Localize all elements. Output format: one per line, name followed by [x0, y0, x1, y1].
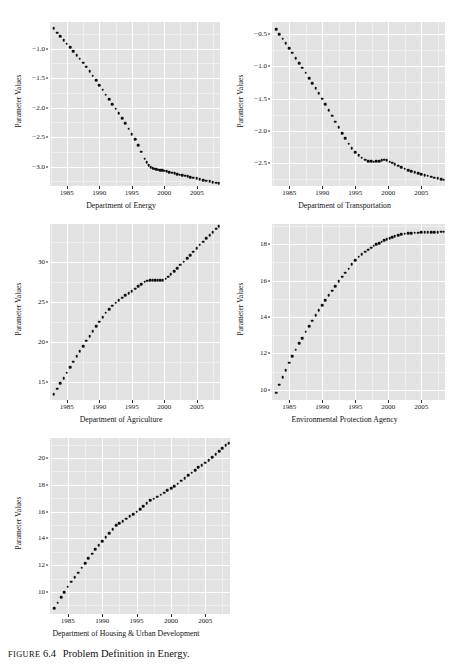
- data-point: [218, 450, 221, 453]
- y-tick-label: −2.0: [254, 127, 267, 135]
- y-tick-label: −1.5: [254, 95, 267, 103]
- data-point: [187, 474, 190, 477]
- grid-major-v: [205, 438, 206, 614]
- data-point: [134, 138, 137, 141]
- grid-minor-v: [339, 22, 340, 186]
- grid-minor-h: [50, 322, 220, 323]
- data-point: [354, 151, 357, 154]
- data-point: [410, 232, 413, 235]
- data-point: [195, 177, 198, 180]
- data-point: [341, 276, 344, 279]
- y-tick-label: 16: [260, 277, 267, 285]
- y-axis-ticks-hud: 101214161820: [24, 432, 48, 644]
- grid-major-v: [137, 438, 138, 614]
- data-point: [87, 557, 90, 560]
- data-point: [67, 585, 70, 588]
- data-point: [173, 485, 176, 488]
- data-point: [82, 61, 85, 64]
- grid-major-v: [99, 224, 100, 400]
- data-point: [85, 66, 88, 69]
- grid-major-v: [355, 22, 356, 186]
- data-point: [121, 117, 124, 120]
- data-point: [91, 552, 94, 555]
- y-axis-ticks-epa: 1012141618: [246, 218, 270, 430]
- grid-minor-h: [50, 498, 230, 499]
- y-tick-label: −3.0: [32, 163, 45, 171]
- data-point: [351, 147, 354, 150]
- data-point: [170, 487, 173, 490]
- data-point: [180, 480, 183, 483]
- data-point: [304, 72, 307, 75]
- data-point: [347, 267, 350, 270]
- data-point: [344, 271, 347, 274]
- grid-major-h: [272, 390, 445, 391]
- y-tick-label: −0.5: [254, 30, 267, 38]
- data-point: [82, 345, 85, 348]
- data-point: [140, 283, 143, 286]
- y-tick-mark: [268, 98, 271, 99]
- grid-minor-h: [50, 122, 220, 123]
- data-point: [208, 234, 211, 237]
- caption-figure-number: 6.4: [43, 648, 56, 659]
- data-point: [217, 225, 220, 228]
- data-point: [62, 377, 65, 380]
- y-tick-label: 20: [38, 454, 45, 462]
- data-point: [152, 497, 155, 500]
- data-point: [189, 176, 192, 179]
- y-tick-label: 18: [260, 240, 267, 248]
- data-point: [124, 294, 127, 297]
- y-tick-mark: [268, 280, 271, 281]
- data-point: [436, 177, 439, 180]
- x-tick-label: 1990: [315, 403, 329, 411]
- y-tick-label: −1.5: [32, 74, 45, 82]
- grid-major-h: [272, 99, 445, 100]
- grid-minor-v: [306, 22, 307, 186]
- data-point: [130, 290, 133, 293]
- grid-major-h: [50, 382, 220, 383]
- data-point: [217, 182, 220, 185]
- x-tick-label: 2000: [164, 617, 178, 625]
- data-point: [202, 240, 205, 243]
- data-point: [442, 179, 445, 182]
- data-point: [79, 57, 82, 60]
- grid-major-h: [50, 108, 220, 109]
- data-point: [227, 442, 230, 445]
- data-point: [101, 540, 104, 543]
- grid-minor-v: [85, 438, 86, 614]
- data-point: [94, 548, 97, 551]
- data-point: [215, 228, 218, 231]
- data-point: [275, 391, 278, 394]
- x-tick-label: 1990: [92, 189, 106, 197]
- grid-minor-h: [272, 50, 445, 51]
- grid-minor-h: [272, 262, 445, 263]
- grid-major-v: [197, 224, 198, 400]
- data-point: [192, 250, 195, 253]
- data-point: [327, 109, 330, 112]
- x-tick-label: 1995: [125, 189, 139, 197]
- data-point: [146, 502, 149, 505]
- grid-major-h: [50, 538, 230, 539]
- y-tick-mark: [46, 262, 49, 263]
- y-tick-mark: [268, 162, 271, 163]
- y-tick-mark: [46, 591, 49, 592]
- data-point: [403, 167, 406, 170]
- y-tick-label: −2.5: [32, 133, 45, 141]
- y-axis-title-text: Parameter Values: [14, 75, 23, 128]
- y-axis-ticks-dept-agriculture: 15202530: [24, 218, 48, 430]
- data-point: [186, 257, 189, 260]
- x-tick-label: 2000: [157, 189, 171, 197]
- grid-major-h: [50, 512, 230, 513]
- grid-minor-v: [83, 22, 84, 186]
- data-point: [291, 52, 294, 55]
- grid-minor-h: [50, 445, 230, 446]
- x-tick-label: 2005: [414, 403, 428, 411]
- grid-minor-h: [272, 299, 445, 300]
- grid-major-h: [50, 167, 220, 168]
- x-axis-title-dept-energy: Department of Energy: [12, 201, 230, 210]
- data-point: [413, 171, 416, 174]
- data-point: [308, 77, 311, 80]
- chart-panel-dept-agriculture: Parameter Values152025301985199019952000…: [12, 218, 230, 430]
- grid-major-h: [272, 353, 445, 354]
- data-point: [69, 46, 72, 49]
- grid-major-h: [272, 34, 445, 35]
